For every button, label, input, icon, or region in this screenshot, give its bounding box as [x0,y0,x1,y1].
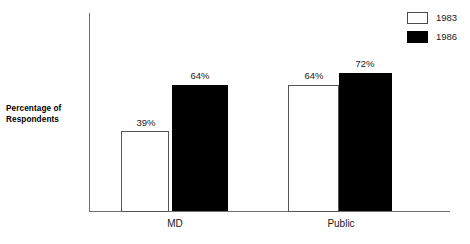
category-label-public: Public [313,218,369,229]
y-axis-title-line-1: Percentage of [6,103,86,114]
legend-label-1986: 1986 [436,31,457,42]
value-label-public-1983: 64% [292,70,336,81]
y-axis-line [89,13,90,212]
legend-item-1983: 1983 [407,11,457,24]
legend-swatch-1986-icon [407,31,428,43]
bar-public-1986 [339,73,392,211]
bar-md-1986 [172,85,228,211]
legend-swatch-1983-icon [407,12,428,24]
legend-item-1986: 1986 [407,30,457,43]
legend-label-1983: 1983 [436,12,457,23]
bar-md-1983 [121,131,169,212]
y-axis-title: Percentage of Respondents [6,103,86,125]
category-label-md: MD [150,218,200,229]
bar-chart-figure: Percentage of Respondents 39% 64% 64% 72… [0,0,470,244]
value-label-md-1983: 39% [124,117,168,128]
bar-public-1983 [288,85,339,212]
value-label-public-1986: 72% [343,58,387,69]
y-axis-title-line-2: Respondents [6,114,86,125]
value-label-md-1986: 64% [178,70,222,81]
chart-legend: 1983 1986 [407,11,457,49]
